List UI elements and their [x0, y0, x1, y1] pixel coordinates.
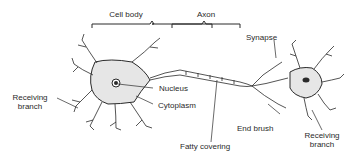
end-brush — [252, 62, 288, 108]
label-receiving-branch-left-1: Receiving — [10, 93, 50, 102]
label-axon: Axon — [186, 10, 226, 19]
label-synapse: Synapse — [246, 33, 277, 42]
neuron-diagram: Cell body Axon Synapse Receiving branch … — [0, 0, 358, 161]
label-nucleus: Nucleus — [159, 84, 188, 93]
axon-bracket — [172, 21, 240, 28]
label-end-brush: End brush — [237, 124, 273, 133]
label-cytoplasm: Cytoplasm — [158, 101, 196, 110]
label-receiving-branch-right-2: branch — [300, 140, 344, 149]
label-fatty-covering: Fatty covering — [180, 142, 230, 151]
label-cell-body: Cell body — [100, 10, 152, 19]
label-receiving-branch-right-1: Receiving — [300, 131, 344, 140]
cell-body — [91, 60, 150, 104]
label-receiving-branch-left-2: branch — [10, 102, 50, 111]
receiving-cell — [290, 40, 344, 120]
